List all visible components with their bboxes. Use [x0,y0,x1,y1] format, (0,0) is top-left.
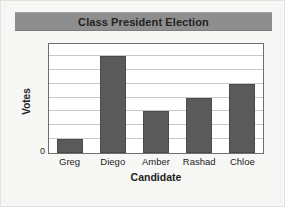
bar-rashad [186,98,212,154]
bar-greg [57,139,83,153]
bar-slot [135,44,178,153]
x-axis-label-greg: Greg [48,156,91,167]
page-title: Class President Election [78,16,209,28]
bar-amber [143,111,169,153]
bar-chloe [229,84,255,153]
bar-slot [49,44,92,153]
plot-area [48,43,264,154]
bar-diego [100,56,126,153]
x-axis-label-chloe: Chloe [221,156,264,167]
y-axis-title-label: Votes [21,88,32,115]
y-axis-tick-label-0: 0 [34,146,45,156]
x-axis-label-amber: Amber [134,156,177,167]
y-axis-title: Votes [20,75,33,127]
bar-slot [177,44,220,153]
bar-slot [220,44,263,153]
chart-card: Class President Election Votes 0 GregDie… [0,0,285,207]
x-axis-tick-labels: GregDiegoAmberRashadChloe [48,156,264,167]
x-axis-title: Candidate [48,171,264,183]
x-axis-label-diego: Diego [91,156,134,167]
x-axis-label-rashad: Rashad [178,156,221,167]
bar-slot [92,44,135,153]
bar-series [49,44,263,153]
chart-title-banner: Class President Election [15,12,272,31]
